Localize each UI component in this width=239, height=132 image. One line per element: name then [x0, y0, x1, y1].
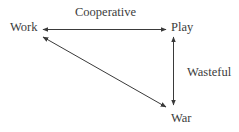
- edge-label-wasteful: Wasteful: [187, 65, 231, 79]
- node-war: War: [171, 111, 192, 125]
- edge-label-cooperative: Cooperative: [75, 5, 136, 19]
- edge-work-war-arrow: [43, 37, 166, 107]
- node-play: Play: [171, 20, 193, 34]
- node-work: Work: [10, 20, 37, 34]
